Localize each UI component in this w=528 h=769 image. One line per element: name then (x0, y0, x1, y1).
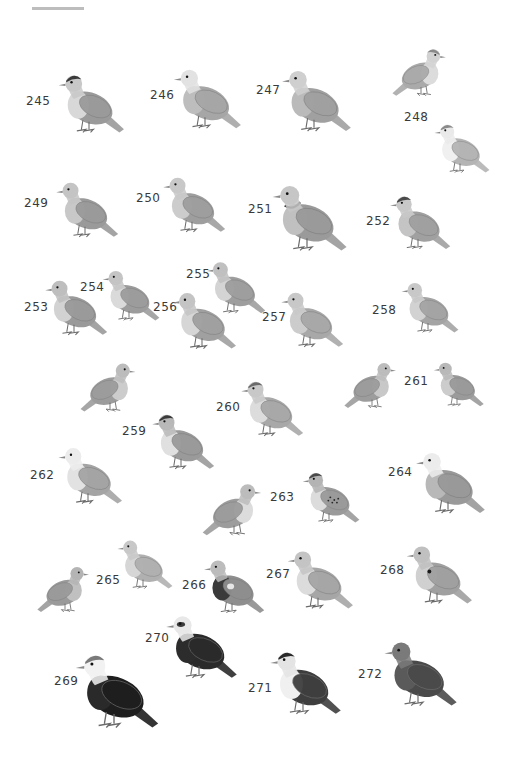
pigeon-illustration (66, 641, 162, 737)
bird-illustration-plate: 2452462472482492502512522532542552562572… (0, 0, 528, 769)
pigeon-illustration (34, 558, 96, 618)
pigeon-illustration (274, 59, 354, 139)
pigeon-illustration (376, 186, 460, 256)
pigeon-illustration (383, 40, 459, 102)
species-number-label: 248 (404, 110, 428, 124)
pigeon-illustration (428, 113, 492, 181)
pigeon-illustration (376, 630, 460, 714)
pigeon-illustration (262, 173, 352, 259)
pigeon-illustration (166, 58, 244, 136)
pigeon-illustration (341, 354, 403, 414)
pigeon-illustration (110, 531, 176, 595)
pigeon-illustration (44, 172, 126, 244)
pigeon-illustration (425, 354, 489, 412)
pigeon-illustration (262, 634, 344, 728)
pigeon-illustration (280, 540, 356, 616)
pigeon-illustration (72, 354, 148, 418)
species-number-label: 259 (122, 424, 146, 438)
pigeon-illustration (44, 437, 132, 511)
pigeon-illustration (157, 604, 241, 686)
pigeon-illustration (380, 273, 476, 339)
pigeon-illustration (152, 167, 232, 239)
pigeon-illustration (290, 463, 368, 529)
pigeon-illustration (144, 404, 218, 476)
pigeon-illustration (274, 282, 346, 354)
pigeon-illustration (200, 473, 268, 543)
pigeon-illustration (232, 371, 308, 443)
pigeon-illustration (408, 440, 488, 522)
pigeon-illustration (164, 282, 240, 356)
pigeon-illustration (396, 535, 478, 611)
pigeon-illustration (42, 64, 136, 140)
pigeon-illustration (96, 255, 162, 333)
